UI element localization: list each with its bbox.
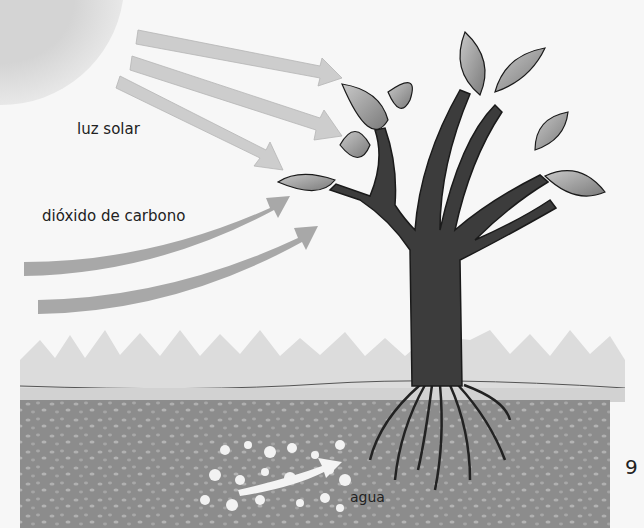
co2-label: dióxido de carbono: [42, 207, 185, 225]
photosynthesis-diagram: [0, 0, 644, 528]
soil: [20, 400, 610, 528]
grass: [20, 330, 625, 390]
sunlight-label: luz solar: [77, 120, 140, 138]
water-label: agua: [350, 489, 385, 505]
sunlight-arrows: [116, 30, 342, 170]
tree: [330, 90, 556, 386]
page-number: 9: [625, 455, 638, 479]
sun: [0, 0, 123, 105]
